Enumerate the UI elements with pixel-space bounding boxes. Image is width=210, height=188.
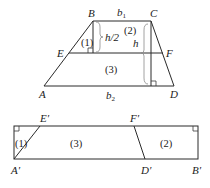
rect-region-3-label: (3) bbox=[70, 138, 83, 150]
height-label: h bbox=[133, 37, 139, 49]
right-angle-marker-3 bbox=[14, 126, 19, 131]
right-angle-marker-4 bbox=[193, 126, 198, 131]
rect-region-2-label: (2) bbox=[160, 138, 173, 150]
region-2-label: (2) bbox=[124, 25, 137, 37]
region-1-label: (1) bbox=[81, 37, 94, 49]
vertex-a-prime-label: A′ bbox=[10, 164, 21, 176]
trapezoid-area-diagram: B C E F A D b1 b2 h/2 h (1) (2) (3) E′ F… bbox=[0, 0, 210, 188]
trapezoid-figure: B C E F A D b1 b2 h/2 h (1) (2) (3) bbox=[38, 6, 178, 103]
vertex-d-prime-label: D′ bbox=[140, 164, 152, 176]
vertex-f-prime-label: F′ bbox=[129, 112, 140, 124]
vertex-e-label: E bbox=[56, 47, 64, 59]
vertex-b-label: B bbox=[88, 7, 95, 19]
brace-height bbox=[141, 24, 148, 84]
cut-line-fd bbox=[134, 126, 145, 159]
right-angle-marker-1 bbox=[88, 48, 93, 53]
vertex-e-prime-label: E′ bbox=[39, 112, 50, 124]
vertex-c-label: C bbox=[150, 7, 158, 19]
vertex-d-label: D bbox=[169, 88, 178, 100]
base-b1-label: b1 bbox=[117, 6, 127, 20]
vertex-b-prime-label: B′ bbox=[192, 164, 202, 176]
brace-half-height bbox=[96, 22, 103, 52]
base-b2-label: b2 bbox=[106, 89, 116, 103]
right-angle-marker-2 bbox=[151, 81, 156, 86]
rectangle-figure: E′ F′ A′ D′ B′ (1) (3) (2) bbox=[10, 112, 202, 176]
rect-region-1-label: (1) bbox=[15, 138, 28, 150]
half-height-label: h/2 bbox=[105, 31, 120, 43]
vertex-a-label: A bbox=[38, 88, 46, 100]
region-3-label: (3) bbox=[105, 64, 118, 76]
vertex-f-label: F bbox=[165, 47, 173, 59]
